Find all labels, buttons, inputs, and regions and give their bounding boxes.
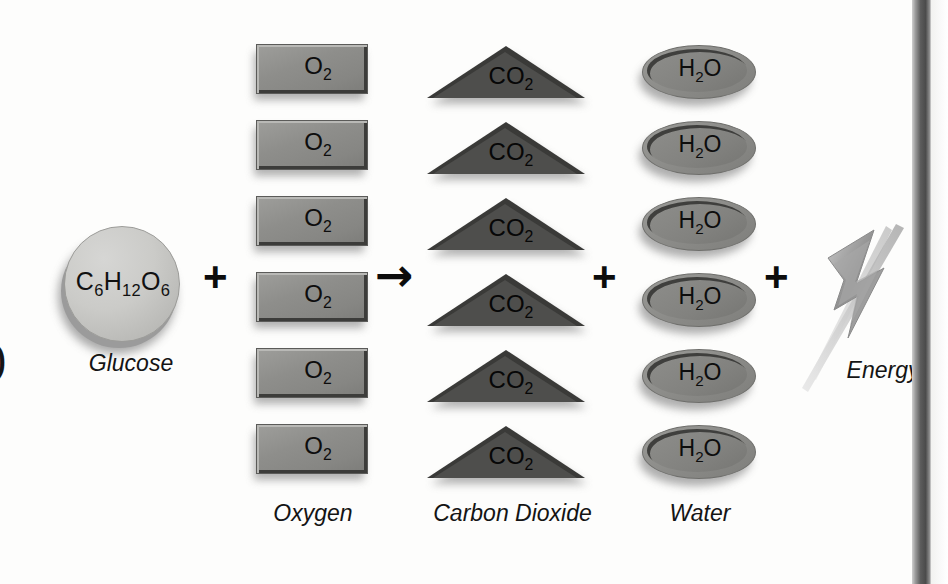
- oxygen-molecule-5: O2: [248, 344, 378, 420]
- glucose-circle-shape: C6H12O6: [64, 226, 180, 342]
- glucose-formula-label: C6H12O6: [76, 267, 170, 300]
- oxygen-formula-label: O2: [304, 356, 331, 388]
- energy-group: Energy: [800, 222, 930, 402]
- water-molecule-3: H2O: [635, 192, 765, 268]
- water-ellipse-inner: H2O: [647, 429, 747, 472]
- co2-formula-label: CO2: [431, 290, 591, 322]
- oxygen-formula-label: O2: [304, 432, 331, 464]
- carbon-dioxide-molecule-5: CO2: [425, 344, 600, 420]
- water-ellipse-inner: H2O: [647, 49, 747, 92]
- carbon-dioxide-molecule-1: CO2: [425, 40, 600, 116]
- co2-formula-label: CO2: [431, 214, 591, 246]
- oxygen-caption: Oxygen: [248, 500, 378, 527]
- co2-formula-label: CO2: [431, 62, 591, 94]
- oxygen-rectangle-shape: O2: [256, 272, 368, 322]
- water-molecule-2: H2O: [635, 116, 765, 192]
- carbon-dioxide-molecule-6: CO2: [425, 420, 600, 496]
- water-caption: Water: [635, 500, 765, 527]
- clipped-parenthesis-glyph: ): [0, 336, 6, 382]
- oxygen-molecule-4: O2: [248, 268, 378, 344]
- oxygen-formula-label: O2: [304, 52, 331, 84]
- glucose-caption: Glucose: [61, 350, 201, 377]
- water-formula-label: H2O: [679, 359, 722, 389]
- water-formula-label: H2O: [679, 435, 722, 465]
- plus-operator-1: +: [203, 256, 228, 298]
- water-molecule-1: H2O: [635, 40, 765, 116]
- reaction-arrow-icon: →: [375, 252, 414, 298]
- co2-formula-label: CO2: [431, 442, 591, 474]
- water-ellipse-inner: H2O: [647, 201, 747, 244]
- oxygen-formula-label: O2: [304, 128, 331, 160]
- water-molecule-6: H2O: [635, 420, 765, 496]
- carbon-dioxide-molecule-4: CO2: [425, 268, 600, 344]
- diagram-canvas: ) C6H12O6 Glucose + O2O2O2O2O2O2 Oxygen …: [0, 0, 948, 584]
- glucose-group: C6H12O6 Glucose: [55, 222, 205, 387]
- water-molecule-4: H2O: [635, 268, 765, 344]
- water-ellipse-inner: H2O: [647, 277, 747, 320]
- water-ellipse-inner: H2O: [647, 353, 747, 396]
- oxygen-column: O2O2O2O2O2O2: [248, 40, 378, 496]
- plus-operator-3: +: [764, 256, 789, 298]
- co2-formula-label: CO2: [431, 138, 591, 170]
- water-formula-label: H2O: [679, 283, 722, 313]
- water-column: H2OH2OH2OH2OH2OH2O: [635, 40, 765, 496]
- oxygen-rectangle-shape: O2: [256, 44, 368, 94]
- oxygen-formula-label: O2: [304, 204, 331, 236]
- oxygen-rectangle-shape: O2: [256, 424, 368, 474]
- oxygen-rectangle-shape: O2: [256, 196, 368, 246]
- water-formula-label: H2O: [679, 131, 722, 161]
- co2-formula-label: CO2: [431, 366, 591, 398]
- carbon-dioxide-molecule-2: CO2: [425, 116, 600, 192]
- oxygen-molecule-3: O2: [248, 192, 378, 268]
- carbon-dioxide-caption: Carbon Dioxide: [420, 500, 605, 527]
- oxygen-molecule-1: O2: [248, 40, 378, 116]
- water-molecule-5: H2O: [635, 344, 765, 420]
- plus-operator-2: +: [592, 256, 617, 298]
- water-formula-label: H2O: [679, 207, 722, 237]
- page-gutter-bar: [912, 0, 931, 584]
- oxygen-formula-label: O2: [304, 280, 331, 312]
- oxygen-rectangle-shape: O2: [256, 120, 368, 170]
- carbon-dioxide-column: CO2CO2CO2CO2CO2CO2: [425, 40, 600, 496]
- oxygen-rectangle-shape: O2: [256, 348, 368, 398]
- page-gutter-edge: [931, 0, 948, 584]
- oxygen-molecule-6: O2: [248, 420, 378, 496]
- carbon-dioxide-molecule-3: CO2: [425, 192, 600, 268]
- water-formula-label: H2O: [679, 55, 722, 85]
- oxygen-molecule-2: O2: [248, 116, 378, 192]
- water-ellipse-inner: H2O: [647, 125, 747, 168]
